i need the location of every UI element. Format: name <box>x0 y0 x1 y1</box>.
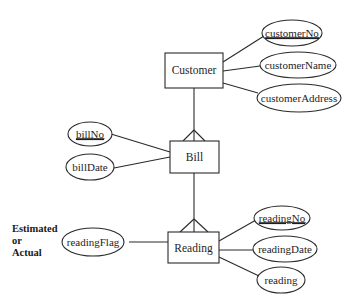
connector-customer-customerName <box>223 66 260 71</box>
connector-reading-reading <box>219 257 259 276</box>
connector-bill-billNo <box>111 134 170 152</box>
connector-customer-customerNo <box>223 36 264 62</box>
attribute-reading-label: reading <box>265 274 298 286</box>
connector-customer-customerAddress <box>223 83 258 93</box>
attribute-customerName-label: customerName <box>265 59 332 71</box>
relationship-customer-bill <box>183 88 205 141</box>
entity-customer[interactable]: Customer <box>165 53 223 88</box>
connector-bill-billDate <box>114 157 170 168</box>
entity-customer-label: Customer <box>172 64 217 76</box>
attribute-customerAddress-label: customerAddress <box>261 92 337 104</box>
attribute-billNo[interactable]: billNo <box>68 122 112 146</box>
annotation-line-3: Actual <box>12 247 42 258</box>
relationship-bill-reading <box>180 173 208 232</box>
entity-bill-label: Bill <box>186 151 203 163</box>
attribute-readingDate[interactable]: readingDate <box>253 236 317 262</box>
annotation-estimated-or-actual: Estimated or Actual <box>12 223 58 258</box>
entity-bill[interactable]: Bill <box>170 141 219 173</box>
entity-reading[interactable]: Reading <box>168 232 219 263</box>
attribute-readingDate-label: readingDate <box>258 243 312 255</box>
attribute-billDate-label: billDate <box>72 161 108 173</box>
entity-reading-label: Reading <box>174 242 213 255</box>
attribute-readingFlag[interactable]: readingFlag <box>62 228 124 256</box>
er-diagram: Customer Bill Reading customerNo custome… <box>0 0 355 305</box>
annotation-line-2: or <box>12 235 22 246</box>
attribute-readingNo[interactable]: readingNo <box>254 206 310 230</box>
connector-reading-readingNo <box>219 220 256 241</box>
attribute-customerNo[interactable]: customerNo <box>262 20 322 46</box>
annotation-line-1: Estimated <box>12 223 58 234</box>
attribute-reading[interactable]: reading <box>257 267 305 293</box>
attribute-billDate[interactable]: billDate <box>66 154 114 180</box>
attribute-customerAddress[interactable]: customerAddress <box>257 84 341 112</box>
attribute-customerName[interactable]: customerName <box>260 52 336 78</box>
attribute-readingFlag-label: readingFlag <box>67 236 120 248</box>
